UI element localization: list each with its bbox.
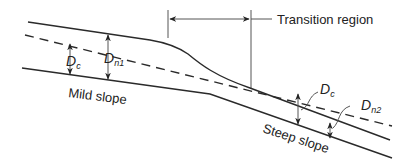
channel-bed <box>22 68 392 158</box>
dn1-label: Dn1 <box>104 50 124 68</box>
transition-diagram: Transition region Dc Dn1 Mild slope Dc D… <box>0 0 405 163</box>
dc-steep-label: Dc <box>320 81 335 99</box>
mild-slope-label: Mild slope <box>68 85 128 107</box>
critical-depth-line <box>25 35 392 126</box>
water-surface <box>28 22 390 140</box>
steep-slope-label: Steep slope <box>261 121 331 156</box>
dn2-label: Dn2 <box>361 97 381 115</box>
dc-mild-label: Dc <box>66 53 81 71</box>
transition-region-label: Transition region <box>277 12 373 27</box>
